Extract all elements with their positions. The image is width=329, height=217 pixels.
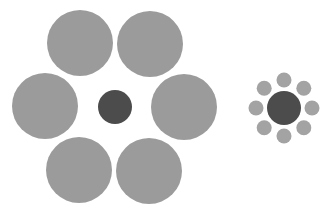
right-target-circle — [267, 91, 301, 125]
small-surround-circle — [296, 120, 311, 135]
large-surround-circle — [12, 73, 78, 139]
ebbinghaus-figure — [0, 0, 329, 217]
small-surround-circle — [257, 120, 272, 135]
large-surround-circle — [46, 137, 112, 203]
small-surround-circle — [296, 81, 311, 96]
small-surround-circle — [277, 129, 292, 144]
large-surround-circle — [151, 74, 217, 140]
small-surround-circle — [257, 81, 272, 96]
large-surround-circle — [117, 11, 183, 77]
left-target-circle — [98, 90, 132, 124]
small-surround-circle — [249, 101, 264, 116]
right-cluster-small-surrounds — [249, 73, 320, 144]
large-surround-circle — [116, 138, 182, 204]
small-surround-circle — [305, 101, 320, 116]
large-surround-circle — [47, 10, 113, 76]
small-surround-circle — [277, 73, 292, 88]
